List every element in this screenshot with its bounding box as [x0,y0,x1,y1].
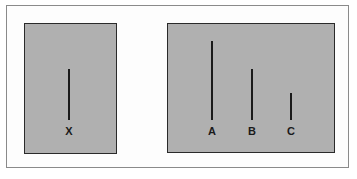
line-label-a: A [205,125,219,137]
line-a [211,41,213,120]
line-label-x: X [62,125,76,137]
line-c [290,93,292,120]
line-label-c: C [284,125,298,137]
line-x [68,69,70,120]
line-b [251,69,253,120]
line-label-b: B [245,125,259,137]
